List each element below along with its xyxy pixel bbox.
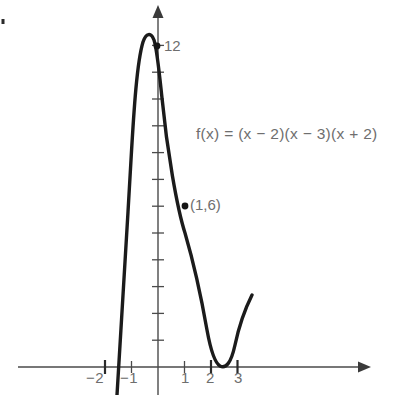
point-marker-1-6 <box>182 203 189 210</box>
page-speck <box>2 19 5 24</box>
x-tick-label-3: 3 <box>234 370 243 385</box>
function-curve <box>117 35 252 395</box>
function-graph-figure: −2 −1 1 2 3 12 (1,6) f(x) = (x − 2)(x − … <box>0 0 414 395</box>
x-tick-label-2: 2 <box>206 370 215 385</box>
equation-label: f(x) = (x − 2)(x − 3)(x + 2) <box>196 126 378 142</box>
x-tick-label--1: −1 <box>120 370 138 385</box>
x-tick-label--2: −2 <box>86 370 104 385</box>
y-intercept-label: 12 <box>164 38 181 53</box>
x-axis-arrow-icon <box>358 362 371 373</box>
point-label: (1,6) <box>190 197 221 212</box>
point-marker-12 <box>154 43 161 50</box>
x-tick-label-1: 1 <box>181 370 190 385</box>
y-axis-arrow-icon <box>153 5 164 18</box>
